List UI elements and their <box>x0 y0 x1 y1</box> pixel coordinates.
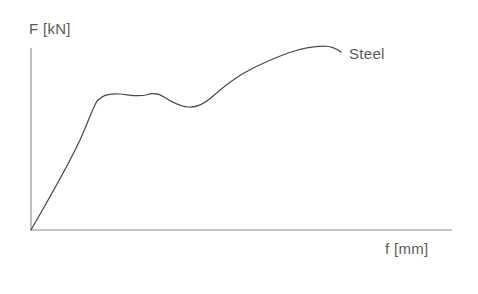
x-axis-label: f [mm] <box>385 240 428 257</box>
chart-figure: F [kN] f [mm] Steel <box>0 0 478 294</box>
steel-curve <box>31 46 341 230</box>
y-axis-label: F [kN] <box>29 20 71 37</box>
series-label-steel: Steel <box>349 45 385 62</box>
